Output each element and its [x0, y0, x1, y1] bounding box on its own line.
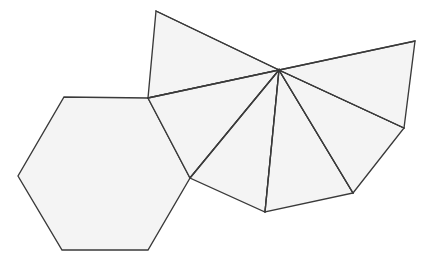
polygon-net-figure	[0, 0, 426, 268]
